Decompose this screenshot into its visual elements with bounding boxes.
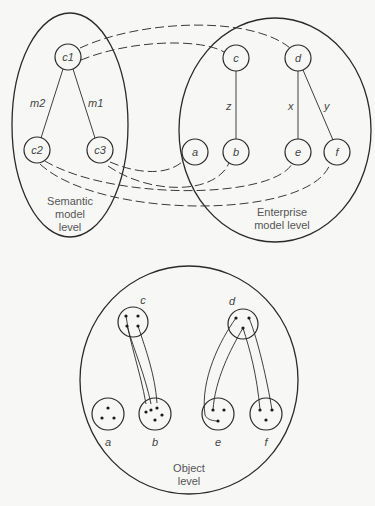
enterprise-caption-line1: Enterprise [257, 206, 307, 218]
set-label: f [264, 436, 268, 448]
edge-label-m2: m2 [30, 97, 45, 109]
mapping-c3-a [110, 160, 184, 172]
semantic-caption-line2: model [55, 208, 85, 220]
semantic-caption-line1: Semantic [47, 195, 93, 207]
node-label: c1 [62, 51, 74, 63]
node-label: b [233, 146, 239, 158]
mapping-c3-b [108, 163, 229, 187]
node-label: c [233, 52, 239, 64]
object-level-region [80, 266, 298, 494]
link-c-b-2 [127, 326, 151, 404]
set-label: c [140, 294, 146, 306]
node-c3[interactable]: c3 [87, 137, 113, 163]
node-d[interactable]: d [285, 45, 311, 71]
conceptual-model-diagram: m2 m1 c1 c2 c3 Semantic model level z x … [0, 0, 375, 506]
node-label: a [192, 146, 198, 158]
instance-links [126, 316, 272, 421]
link-c-b-3 [138, 326, 157, 403]
semantic-caption-line3: level [59, 221, 82, 233]
object-caption-line1: Object [173, 462, 205, 474]
object-set-b[interactable]: b [139, 398, 171, 448]
link-c-b-1 [126, 316, 146, 404]
mapping-c2-e [45, 161, 292, 191]
enterprise-caption-line2: model level [254, 219, 310, 231]
set-label: e [215, 436, 221, 448]
link-d-f-1 [243, 328, 260, 410]
edge-label-m1: m1 [88, 97, 103, 109]
mapping-c1-d [80, 25, 290, 48]
node-label: c2 [31, 144, 43, 156]
edge-label-z: z [225, 100, 232, 112]
node-b[interactable]: b [223, 139, 249, 165]
node-label: d [295, 52, 302, 64]
node-c2[interactable]: c2 [24, 137, 50, 163]
object-set-e[interactable]: e [202, 398, 234, 448]
set-label: b [152, 436, 158, 448]
node-c1[interactable]: c1 [55, 44, 81, 70]
edge-label-y: y [323, 100, 331, 112]
node-e[interactable]: e [285, 139, 311, 165]
set-label: d [229, 295, 236, 307]
object-set-c[interactable]: c [118, 294, 148, 337]
node-f[interactable]: f [324, 139, 350, 165]
node-c[interactable]: c [223, 45, 249, 71]
edge-label-x: x [287, 100, 294, 112]
object-set-d[interactable]: d [228, 295, 258, 339]
object-set-f[interactable]: f [250, 398, 282, 448]
object-caption-line2: level [178, 475, 201, 487]
node-label: c3 [94, 144, 107, 156]
node-label: e [295, 146, 301, 158]
set-label: a [105, 436, 111, 448]
node-a[interactable]: a [182, 139, 208, 165]
